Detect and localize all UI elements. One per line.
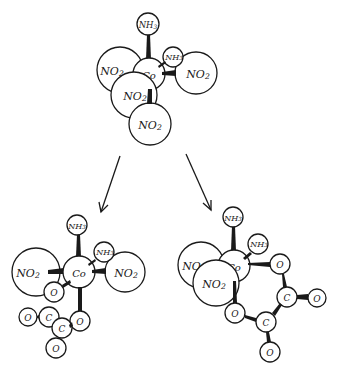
reaction-diagram: NO2 NH3 NO2 NH3 Co NO2 NO2 NO2	[0, 0, 340, 372]
bond-wedge	[76, 234, 81, 257]
bond-wedge	[245, 315, 256, 322]
oxygen-label: O	[76, 317, 84, 327]
bond-wedge	[272, 303, 282, 316]
reaction-arrow-right	[186, 154, 211, 210]
carbon-label: C	[284, 293, 291, 303]
oxygen-label: O	[50, 288, 58, 298]
oxygen-label: O	[276, 260, 284, 270]
bond-wedge	[266, 332, 271, 342]
right-product: NO2 NH3 NH3 Co NO2 O C O O C O	[178, 207, 326, 362]
bond-wedge	[78, 287, 82, 311]
oxygen-label: O	[266, 348, 274, 358]
carbon-label: C	[263, 318, 270, 328]
oxygen-label: O	[24, 313, 32, 323]
oxygen-label: O	[313, 294, 321, 304]
bond-wedge	[297, 294, 308, 300]
bond-wedge	[146, 34, 151, 60]
bond-wedge	[231, 226, 236, 251]
reaction-arrow-left	[99, 156, 120, 212]
bond-wedge	[248, 262, 270, 267]
carbon-label: C	[59, 324, 66, 334]
carbon-label: C	[46, 313, 53, 323]
cobalt-label: Co	[72, 268, 86, 279]
left-product: NO2 NH3 NO2 NH3 Co O O C O O C	[12, 215, 145, 358]
oxygen-label: O	[231, 309, 239, 319]
oxygen-label: O	[52, 344, 60, 354]
bond-wedge	[282, 274, 287, 287]
top-complex: NO2 NH3 NO2 NH3 Co NO2 NO2	[97, 13, 217, 145]
